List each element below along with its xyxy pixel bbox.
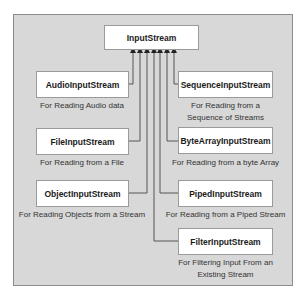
bytearrayinputstream-label: ByteArrayInputStream [180, 136, 270, 146]
sequenceinputstream-description-line-1: For Reading from a [163, 100, 288, 112]
objectinputstream-description: For Reading Objects from a Stream [14, 209, 150, 221]
sequenceinputstream-description-line-2: Sequence of Streams [163, 112, 288, 124]
sequenceinputstream-description: For Reading from a Sequence of Streams [163, 100, 288, 124]
connector-object [129, 52, 147, 193]
filterinputstream-description-line-1: For Filtering Input From an [163, 257, 288, 269]
connector-audio [129, 52, 133, 84]
inputstream-box: InputStream [104, 25, 199, 50]
filterinputstream-label: FilterInputStream [190, 237, 260, 247]
pipedinputstream-description: For Reading from a Piped Stream [158, 209, 293, 221]
audioinputstream-label: AudioInputStream [46, 80, 120, 90]
connector-bytearray [167, 52, 178, 141]
filterinputstream-box: FilterInputStream [178, 228, 273, 255]
pipedinputstream-label: PipedInputStream [189, 189, 262, 199]
audioinputstream-description: For Reading Audio data [22, 100, 142, 112]
bytearrayinputstream-box: ByteArrayInputStream [178, 127, 273, 154]
bytearrayinputstream-description: For Reading from a byte Array [158, 157, 293, 169]
filterinputstream-description-line-2: Existing Stream [163, 269, 288, 281]
fileinputstream-label: FileInputStream [50, 137, 114, 147]
fileinputstream-box: FileInputStream [36, 128, 129, 155]
objectinputstream-box: ObjectInputStream [36, 180, 129, 207]
pipedinputstream-box: PipedInputStream [178, 180, 273, 207]
sequenceinputstream-box: SequenceInputStream [178, 71, 273, 98]
objectinputstream-label: ObjectInputStream [44, 189, 120, 199]
sequenceinputstream-label: SequenceInputStream [181, 80, 271, 90]
inputstream-label: InputStream [127, 33, 177, 43]
fileinputstream-description: For Reading from a File [22, 157, 142, 169]
connector-file [129, 52, 140, 141]
audioinputstream-box: AudioInputStream [36, 71, 129, 98]
filterinputstream-description: For Filtering Input From an Existing Str… [163, 257, 288, 281]
